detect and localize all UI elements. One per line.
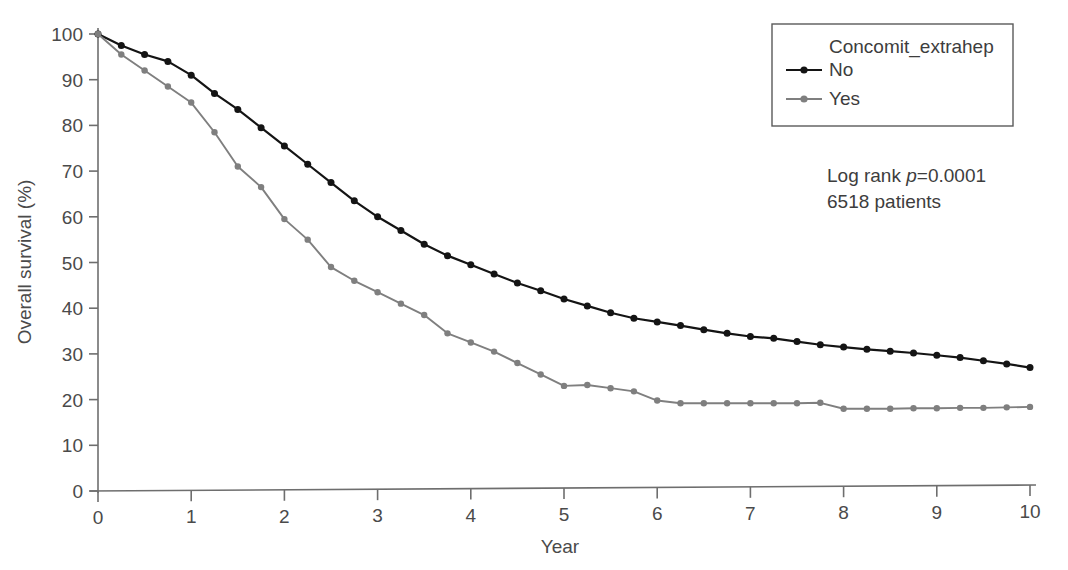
y-axis-ticks: 0102030405060708090100	[51, 24, 98, 502]
data-point	[771, 400, 777, 406]
chart-annotations: Log rank p=0.0001 6518 patients	[827, 165, 986, 212]
y-tick-label: 0	[72, 481, 83, 502]
data-point	[118, 51, 124, 57]
x-tick-label: 5	[559, 504, 570, 525]
data-point	[817, 400, 823, 406]
x-tick-label: 1	[186, 506, 197, 527]
y-tick-label: 90	[62, 70, 83, 91]
data-point	[258, 124, 265, 131]
logrank-p-value: =0.0001	[917, 165, 986, 186]
data-point	[468, 339, 474, 345]
data-point	[840, 406, 846, 412]
data-point	[607, 309, 614, 316]
data-point	[164, 58, 171, 65]
y-tick-label: 10	[62, 435, 83, 456]
data-point	[491, 348, 497, 354]
data-point	[561, 383, 567, 389]
data-point	[491, 270, 498, 277]
data-point	[584, 302, 591, 309]
logrank-p-symbol: p	[905, 165, 917, 186]
data-point	[980, 405, 986, 411]
data-point	[957, 405, 963, 411]
data-point	[677, 322, 684, 329]
data-point	[397, 227, 404, 234]
data-point	[188, 99, 194, 105]
y-tick-label: 80	[62, 115, 83, 136]
data-point	[1004, 404, 1010, 410]
data-point	[934, 405, 940, 411]
data-point	[654, 318, 661, 325]
data-point	[118, 42, 125, 49]
y-tick-label: 30	[62, 344, 83, 365]
data-point	[607, 385, 613, 391]
data-point	[374, 289, 380, 295]
data-point	[421, 312, 427, 318]
data-point	[514, 360, 520, 366]
x-tick-label: 0	[93, 507, 104, 528]
x-tick-label: 3	[372, 505, 383, 526]
data-point	[747, 400, 753, 406]
data-point	[840, 344, 847, 351]
x-axis-line	[90, 485, 1036, 491]
data-point	[584, 382, 590, 388]
x-tick-label: 9	[932, 502, 943, 523]
data-point	[538, 371, 544, 377]
data-point	[794, 338, 801, 345]
y-tick-label: 40	[62, 298, 83, 319]
legend-title: Concomit_extrahep	[829, 36, 994, 58]
data-point	[444, 330, 450, 336]
data-point	[654, 397, 660, 403]
data-point	[701, 400, 707, 406]
data-point	[398, 300, 404, 306]
data-point	[957, 354, 964, 361]
x-axis-title: Year	[541, 536, 580, 557]
x-tick-label: 2	[279, 506, 290, 527]
legend-label: No	[829, 59, 853, 80]
data-point	[234, 106, 241, 113]
data-point	[537, 287, 544, 294]
data-point	[328, 264, 334, 270]
data-point	[281, 216, 287, 222]
data-point	[95, 31, 101, 37]
y-tick-label: 100	[51, 24, 83, 45]
logrank-annotation: Log rank p=0.0001	[827, 165, 986, 186]
data-point	[794, 400, 800, 406]
data-point	[467, 261, 474, 268]
data-point	[887, 406, 893, 412]
data-point	[561, 296, 568, 303]
data-point	[235, 163, 241, 169]
data-point	[304, 161, 311, 168]
data-point	[1003, 360, 1010, 367]
x-tick-label: 6	[652, 503, 663, 524]
x-axis-ticks: 012345678910	[93, 485, 1041, 528]
data-point	[864, 406, 870, 412]
chart-canvas: 0102030405060708090100 012345678910 Over…	[0, 0, 1068, 570]
logrank-prefix: Log rank	[827, 165, 906, 186]
data-point	[328, 179, 335, 186]
chart-legend: Concomit_extrahep NoYes	[772, 24, 1013, 126]
data-point	[351, 197, 358, 204]
data-point	[211, 90, 218, 97]
data-point	[770, 335, 777, 342]
y-tick-label: 50	[62, 253, 83, 274]
x-tick-label: 10	[1019, 501, 1040, 522]
x-tick-label: 7	[745, 503, 756, 524]
data-point	[631, 388, 637, 394]
data-point	[724, 400, 730, 406]
data-point	[141, 51, 148, 58]
legend-label: Yes	[829, 88, 860, 109]
y-axis-title: Overall survival (%)	[14, 180, 35, 345]
data-point	[305, 236, 311, 242]
data-point	[817, 341, 824, 348]
data-point	[700, 326, 707, 333]
data-point	[933, 352, 940, 359]
data-point	[724, 330, 731, 337]
data-point	[1027, 404, 1033, 410]
x-tick-label: 4	[466, 505, 477, 526]
data-point	[514, 280, 521, 287]
data-point	[1027, 364, 1034, 371]
data-point	[910, 405, 916, 411]
data-point	[141, 67, 147, 73]
data-point	[421, 241, 428, 248]
data-point	[747, 333, 754, 340]
